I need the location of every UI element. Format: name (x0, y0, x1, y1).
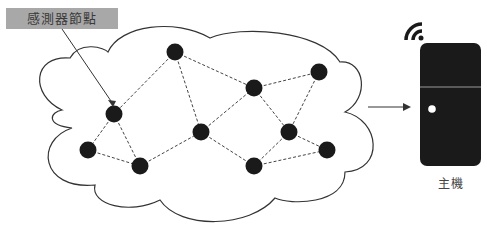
uplink-arrowhead (403, 103, 411, 111)
sensor-node (311, 64, 328, 81)
wifi-icon (406, 24, 424, 41)
sensor-node (132, 158, 149, 175)
sensor-node (246, 80, 263, 97)
sensor-network-diagram (0, 0, 487, 240)
sensor-node (319, 142, 336, 159)
sensor-node (167, 44, 184, 61)
sensor-node-label: 感測器節點 (6, 8, 118, 29)
sensor-node (246, 158, 263, 175)
network-cloud (40, 27, 374, 222)
sensor-node (193, 124, 210, 141)
host-label: 主機 (434, 174, 468, 191)
sensor-node (106, 106, 123, 123)
sensor-node (80, 142, 97, 159)
sensor-node (281, 124, 298, 141)
server-icon (420, 43, 481, 166)
